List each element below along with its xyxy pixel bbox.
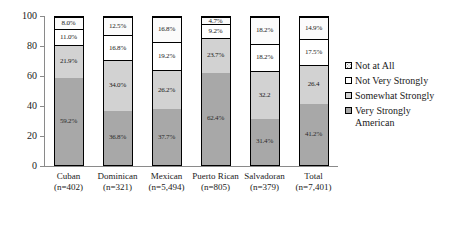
chart-legend: Not at AllNot Very StronglySomewhat Stro… [345,60,457,132]
bar-segment-value: 23.7% [207,52,224,59]
bar-segment-value: 37.7% [158,134,175,141]
bar-segment: 23.7% [202,38,230,73]
y-axis-tick-label: 100 [22,11,37,21]
bar-column: 37.7%26.2%19.2%16.8% [152,16,182,166]
legend-swatch-icon [345,92,352,99]
legend-swatch-icon [345,107,352,114]
bar-segment: 26.4 [300,65,328,104]
stacked-bar: 62.4%23.7%9.2%4.7% [201,16,231,166]
legend-swatch-icon [345,77,352,84]
bar-segment-value: 32.2 [259,92,270,99]
bar-segment: 37.7% [153,109,181,165]
bar-segment: 11.0% [55,29,83,45]
y-axis-tick-label: 80 [27,41,37,51]
stacked-bar: 59.2%21.9%11.0%8.0% [54,16,84,166]
bar-column: 59.2%21.9%11.0%8.0% [54,16,84,166]
legend-item: Not at All [345,60,457,72]
bar-segment-value: 14.9% [305,25,322,32]
stacked-bar-chart: 020406080100 59.2%21.9%11.0%8.0%36.8%34.… [0,0,460,231]
bar-segment: 21.9% [55,45,83,77]
bar-segment-value: 59.2% [60,118,77,125]
bar-segment-value: 62.4% [207,115,224,122]
y-axis-tick-label: 60 [27,71,37,81]
legend-label: Not at All [355,60,394,72]
legend-swatch-icon [345,62,352,69]
bar-segment-value: 26.2% [158,87,175,94]
y-axis-tick-label: 40 [27,101,37,111]
bar-segment: 62.4% [202,73,230,165]
bar-segment-value: 16.8% [109,45,126,52]
legend-label: Somewhat Strongly [355,90,434,102]
category-sample-size: (n=7,401) [282,182,346,193]
bar-segment: 18.2% [251,17,279,44]
bar-segment: 41.2% [300,104,328,165]
bar-segment-value: 8.0% [62,20,76,27]
bar-segment: 34.0% [104,60,132,110]
plot-area: 020406080100 59.2%21.9%11.0%8.0%36.8%34.… [44,16,338,166]
legend-item: Somewhat Strongly [345,90,457,102]
bar-segment: 16.8% [104,35,132,60]
y-axis-tick [40,166,44,167]
bar-segment: 18.2% [251,44,279,71]
bar-segment-value: 36.8% [109,134,126,141]
bar-segment: 36.8% [104,111,132,165]
bar-segment-value: 12.5% [109,23,126,30]
bar-segment: 32.2 [251,71,279,119]
bar-segment-value: 17.5% [305,49,322,56]
bar-group: 59.2%21.9%11.0%8.0%36.8%34.0%16.8%12.5%3… [44,16,338,166]
bar-column: 62.4%23.7%9.2%4.7% [201,16,231,166]
legend-item: Not Very Strongly [345,75,457,87]
bar-segment-value: 16.8% [158,26,175,33]
bar-segment-value: 9.2% [209,28,223,35]
bar-segment: 14.9% [300,17,328,39]
bar-segment: 31.4% [251,119,279,165]
category-label: Total(n=7,401) [282,171,346,193]
bar-column: 31.4%32.218.2%18.2% [250,16,280,166]
legend-label: Not Very Strongly [355,75,428,87]
legend-item: Very Strongly American [345,105,457,129]
bar-segment: 26.2% [153,70,181,109]
bar-segment-value: 26.4 [308,81,319,88]
bar-segment-value: 31.4% [256,138,273,145]
bar-segment-value: 18.2% [256,27,273,34]
category-name: Total [282,171,346,182]
bar-segment: 59.2% [55,78,83,166]
legend-label: Very Strongly American [355,105,411,129]
bar-segment-value: 11.0% [60,34,77,41]
x-axis-line [44,166,338,167]
bar-segment: 9.2% [202,24,230,38]
bar-segment: 17.5% [300,39,328,65]
bar-segment-value: 21.9% [60,58,77,65]
stacked-bar: 36.8%34.0%16.8%12.5% [103,16,133,166]
bar-column: 41.2%26.417.5%14.9% [299,16,329,166]
stacked-bar: 41.2%26.417.5%14.9% [299,16,329,166]
bar-column: 36.8%34.0%16.8%12.5% [103,16,133,166]
bar-segment: 12.5% [104,17,132,36]
bar-segment: 8.0% [55,17,83,29]
bar-segment-value: 4.7% [209,18,223,25]
bar-segment: 16.8% [153,17,181,42]
y-axis-tick-label: 0 [32,161,37,171]
bar-segment: 19.2% [153,42,181,70]
bar-segment-value: 18.2% [256,54,273,61]
bar-segment-value: 41.2% [305,131,322,138]
bar-segment-value: 19.2% [158,53,175,60]
bar-segment-value: 34.0% [109,82,126,89]
stacked-bar: 37.7%26.2%19.2%16.8% [152,16,182,166]
bar-segment: 4.7% [202,17,230,24]
stacked-bar: 31.4%32.218.2%18.2% [250,16,280,166]
y-axis-tick-label: 20 [27,131,37,141]
